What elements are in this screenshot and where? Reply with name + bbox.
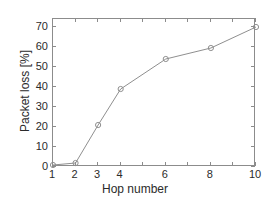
data-series-svg: [53, 19, 256, 167]
y-tick-label: 50: [36, 61, 48, 72]
x-axis-title: Hop number: [0, 183, 270, 195]
y-tick-mark: [52, 146, 56, 147]
x-tick-label: 4: [117, 169, 123, 180]
y-tick-mark: [251, 66, 255, 67]
x-tick-label: 10: [249, 169, 261, 180]
x-tick-mark: [255, 18, 256, 22]
y-tick-mark: [52, 26, 56, 27]
x-tick-mark: [255, 162, 256, 166]
y-tick-label: 20: [36, 121, 48, 132]
y-tick-label: 40: [36, 81, 48, 92]
y-tick-mark: [251, 46, 255, 47]
y-tick-mark: [251, 86, 255, 87]
x-tick-mark: [165, 18, 166, 22]
y-tick-mark: [52, 86, 56, 87]
x-tick-mark: [210, 162, 211, 166]
chart-figure: 010203040506070 12346810 Hop number Pack…: [0, 0, 270, 203]
x-tick-mark: [75, 18, 76, 22]
y-tick-label: 70: [36, 21, 48, 32]
y-tick-label: 0: [42, 161, 48, 172]
y-tick-mark: [52, 106, 56, 107]
x-tick-label: 3: [94, 169, 100, 180]
packet-loss-line: [53, 27, 256, 165]
y-tick-mark: [251, 26, 255, 27]
x-tick-mark: [75, 162, 76, 166]
x-tick-mark: [232, 162, 233, 166]
y-tick-mark: [251, 146, 255, 147]
x-tick-mark: [187, 18, 188, 22]
x-tick-mark: [97, 18, 98, 22]
x-tick-mark: [165, 162, 166, 166]
x-tick-label: 2: [71, 169, 77, 180]
plot-area: [52, 18, 255, 166]
x-tick-mark: [187, 162, 188, 166]
y-axis-title: Packet loss [%]: [19, 11, 31, 171]
y-tick-mark: [251, 166, 255, 167]
y-tick-mark: [251, 126, 255, 127]
x-tick-mark: [210, 18, 211, 22]
y-tick-mark: [251, 106, 255, 107]
x-tick-mark: [52, 18, 53, 22]
x-tick-mark: [97, 162, 98, 166]
y-tick-label: 10: [36, 141, 48, 152]
packet-loss-markers: [50, 24, 258, 167]
x-tick-mark: [120, 18, 121, 22]
x-tick-mark: [142, 18, 143, 22]
x-tick-mark: [52, 162, 53, 166]
y-tick-label: 60: [36, 41, 48, 52]
y-tick-mark: [52, 166, 56, 167]
y-tick-mark: [52, 66, 56, 67]
x-tick-mark: [142, 162, 143, 166]
x-tick-mark: [120, 162, 121, 166]
x-tick-label: 1: [49, 169, 55, 180]
y-tick-mark: [52, 46, 56, 47]
x-tick-label: 8: [207, 169, 213, 180]
y-tick-mark: [52, 126, 56, 127]
y-tick-label: 30: [36, 101, 48, 112]
x-tick-mark: [232, 18, 233, 22]
x-tick-label: 6: [162, 169, 168, 180]
